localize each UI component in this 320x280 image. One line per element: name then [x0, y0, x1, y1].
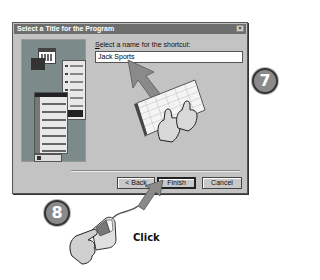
- arrow-icon: [138, 180, 163, 210]
- hand-icon: [70, 229, 97, 264]
- step-7-badge: 7: [252, 68, 278, 94]
- click-instruction-label: Click: [133, 232, 160, 243]
- step-8-badge: 8: [44, 200, 70, 226]
